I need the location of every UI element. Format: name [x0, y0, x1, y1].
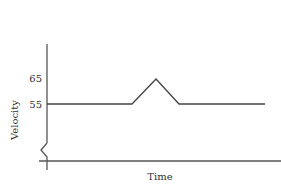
y-tick-55: 55 — [29, 99, 42, 110]
y-tick-65: 65 — [29, 73, 42, 84]
velocity-time-chart: 65 55 Time Velocity — [0, 0, 281, 195]
y-axis-label: Velocity — [9, 100, 20, 141]
velocity-line — [47, 79, 265, 104]
y-axis-break-icon — [41, 143, 47, 170]
x-axis-label: Time — [147, 171, 172, 182]
